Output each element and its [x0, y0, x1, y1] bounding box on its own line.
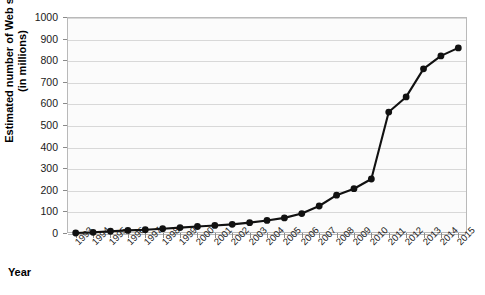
- y-tick-label: 400: [40, 141, 58, 152]
- y-tick-label: 700: [40, 77, 58, 88]
- y-tick-label: 500: [40, 120, 58, 131]
- gridline: [68, 104, 466, 105]
- y-axis-ticks: 01002003004005006007008009001000: [0, 0, 67, 250]
- gridline: [68, 169, 466, 170]
- gridline: [68, 148, 466, 149]
- gridline: [68, 40, 466, 41]
- gridline: [68, 18, 466, 19]
- gridline: [68, 212, 466, 213]
- y-tick-label: 300: [40, 163, 58, 174]
- y-tick-label: 200: [40, 185, 58, 196]
- gridline: [68, 191, 466, 192]
- gridline: [68, 83, 466, 84]
- y-tick-mark: [63, 233, 67, 234]
- y-tick-label: 800: [40, 55, 58, 66]
- gridline: [68, 126, 466, 127]
- web-sites-line-chart: Estimated number of Web sites (in millio…: [0, 0, 485, 295]
- y-tick-label: 1000: [35, 12, 58, 23]
- gridline: [68, 61, 466, 62]
- y-tick-label: 900: [40, 33, 58, 44]
- x-axis-title-text: Year: [8, 266, 31, 278]
- plot-area: [67, 17, 467, 233]
- x-axis-title: Year: [0, 266, 485, 278]
- y-tick-label: 0: [52, 228, 58, 239]
- y-tick-label: 100: [40, 206, 58, 217]
- y-tick-label: 600: [40, 98, 58, 109]
